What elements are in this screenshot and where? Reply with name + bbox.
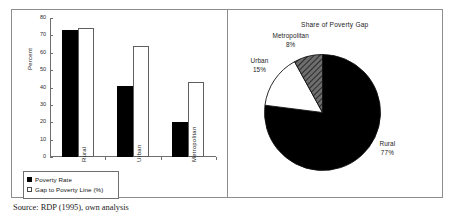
bar-chart-y-tick-label: 80 [28,15,46,21]
bar-chart-y-tick-label: 0 [28,154,46,160]
pie-callout-rural: Rural 77% [380,140,396,157]
bar-chart-plot-area: 01020304050607080 RuralUrbanMetropolitan [50,18,216,157]
legend-item-poverty-rate: Poverty Rate [27,175,115,184]
bar-chart-y-tick-label: 10 [28,137,46,143]
bar-group [117,18,149,157]
pie-callout-urban: Urban 15% [251,57,269,74]
pie-callout-name: Metropolitan [273,32,309,39]
pie-chart-panel: Share of Poverty Gap Metropolitan 8% [228,10,443,197]
pie-chart-plot-area [264,54,381,171]
bar-chart-y-tick-label: 40 [28,85,46,91]
bar-chart-y-tick-mark [50,140,53,141]
chart-panels: Percent 01020304050607080 RuralUrbanMetr… [11,9,443,198]
bar-chart-y-tick-mark [50,157,53,158]
bar-chart-x-tick-mark [216,157,217,160]
bar-chart-y-tick-mark [50,88,53,89]
bar-chart-x-tick-label: Urban [136,145,142,162]
bar-chart-y-tick-mark [50,35,53,36]
bar-chart-x-tick-mark [161,157,162,160]
bar-chart-y-tick-mark [50,70,53,71]
bar [78,28,94,157]
bar [62,30,78,157]
pie-callout-value: 15% [251,66,269,75]
bar-chart-y-tick-label: 20 [28,120,46,126]
pie-callout-metropolitan: Metropolitan 8% [273,32,309,49]
legend-swatch-icon [27,187,32,192]
pie-chart-title: Share of Poverty Gap [228,21,443,28]
legend-item-label: Gap to Poverty Line (%) [35,186,103,193]
legend-item-gap-to-poverty-line: Gap to Poverty Line (%) [27,185,115,194]
bar-chart-panel: Percent 01020304050607080 RuralUrbanMetr… [12,10,228,197]
bar-chart-y-tick-label: 70 [28,33,46,39]
bar-chart-y-tick-label: 30 [28,102,46,108]
legend-swatch-icon [27,177,32,182]
bar-chart-x-tick-label: Rural [81,147,87,162]
pie-chart-graphic [264,54,381,171]
bar-chart-x-tick-mark [105,157,106,160]
bar-chart-y-tick-mark [50,18,53,19]
pie-callout-name: Urban [251,57,269,64]
bar-group [172,18,204,157]
figure-container: Percent 01020304050607080 RuralUrbanMetr… [0,0,456,221]
bar-chart-y-tick-label: 50 [28,67,46,73]
bar-chart-y-tick-mark [50,122,53,123]
source-note: Source: RDP (1995), own analysis [13,203,129,212]
bar [117,86,133,157]
bar-chart-y-tick-mark [50,53,53,54]
bar-chart-x-tick-label: Metropolitan [191,127,197,162]
bar-chart-y-tick-mark [50,105,53,106]
legend-item-label: Poverty Rate [35,176,72,183]
pie-callout-value: 77% [380,149,396,158]
bar-chart-legend: Poverty Rate Gap to Poverty Line (%) [23,171,119,199]
bar [172,122,188,157]
pie-callout-value: 8% [273,41,309,50]
bar [133,46,149,157]
pie-callout-name: Rural [380,140,396,147]
bar-group [62,18,94,157]
bar-chart-y-tick-label: 60 [28,50,46,56]
